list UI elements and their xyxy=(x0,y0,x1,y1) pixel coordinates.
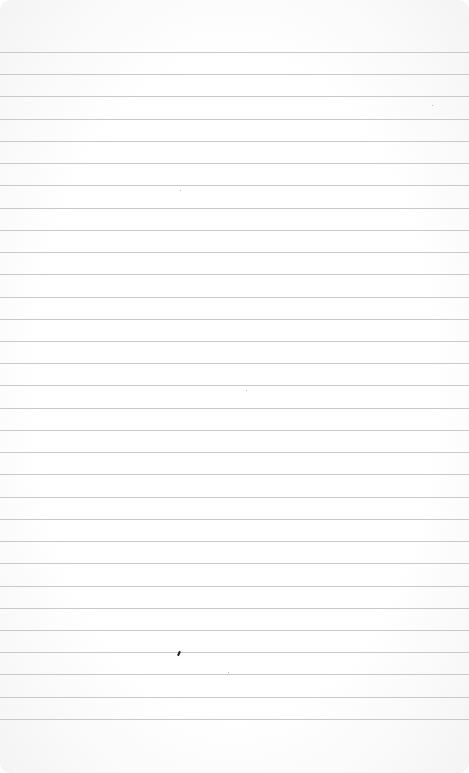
ruled-line xyxy=(0,430,469,431)
ruled-line xyxy=(0,230,469,231)
ruled-line xyxy=(0,363,469,364)
pen-mark xyxy=(177,651,181,656)
ruled-line xyxy=(0,474,469,475)
ruled-line xyxy=(0,274,469,275)
ruled-line xyxy=(0,52,469,53)
ruled-line xyxy=(0,96,469,97)
ruled-line xyxy=(0,541,469,542)
ruled-line xyxy=(0,385,469,386)
ruled-line xyxy=(0,608,469,609)
ruled-line xyxy=(0,630,469,631)
ruled-line xyxy=(0,74,469,75)
ruled-line xyxy=(0,563,469,564)
ruled-line xyxy=(0,452,469,453)
ruled-line xyxy=(0,341,469,342)
ruled-line xyxy=(0,185,469,186)
ruled-line xyxy=(0,208,469,209)
ruled-line xyxy=(0,252,469,253)
ruled-line xyxy=(0,119,469,120)
ruled-line xyxy=(0,697,469,698)
paper-speck xyxy=(228,672,229,673)
ruled-line xyxy=(0,519,469,520)
paper-speck xyxy=(432,105,433,106)
ruled-line xyxy=(0,497,469,498)
ruled-line xyxy=(0,141,469,142)
paper-speck xyxy=(180,190,181,191)
lined-paper-sheet xyxy=(0,0,469,773)
ruled-line xyxy=(0,297,469,298)
ruled-line xyxy=(0,674,469,675)
ruled-line xyxy=(0,408,469,409)
ruled-line xyxy=(0,652,469,653)
ruled-line xyxy=(0,163,469,164)
ruled-line xyxy=(0,586,469,587)
paper-speck xyxy=(246,390,247,391)
ruled-line xyxy=(0,319,469,320)
ruled-line xyxy=(0,719,469,720)
